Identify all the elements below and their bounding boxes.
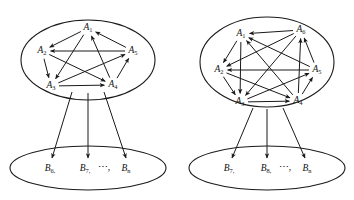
arc-A4-to-A5 xyxy=(117,58,129,78)
tournament-digraph-figure: A1A2A3A4A5B6,B7,⋯,BnA1A6A2A5A3A4B7,B8,⋯,… xyxy=(0,0,354,200)
lower-node-label-1: B6, xyxy=(45,163,56,174)
lower-node-label-2: B8, xyxy=(261,163,272,174)
node-label-A3: A3 xyxy=(234,96,244,107)
node-label-A4: A4 xyxy=(107,79,118,90)
arc-A1-to-A3 xyxy=(240,42,241,93)
node-label-A1: A1 xyxy=(235,28,245,39)
node-label-A3: A3 xyxy=(45,80,55,91)
arc-A3-to-A4 xyxy=(248,101,289,102)
arc-A5-to-A1 xyxy=(96,32,126,47)
ellipsis-label: ⋯, xyxy=(279,162,291,172)
lower-node-label-4: Bn xyxy=(121,163,131,174)
lower-node-label-2: B7, xyxy=(80,163,91,174)
left-diagram: A1A2A3A4A5B6,B7,⋯,Bn xyxy=(10,20,166,190)
node-label-A4: A4 xyxy=(292,95,303,106)
arc-A2-to-A3 xyxy=(44,59,49,78)
descending-arc-3 xyxy=(104,92,126,158)
arc-A2-to-A3 xyxy=(223,77,235,95)
node-label-A1: A1 xyxy=(82,22,92,33)
node-label-A6: A6 xyxy=(295,24,305,35)
ellipsis-label: ⋯, xyxy=(98,162,110,172)
diagram-canvas: A1A2A3A4A5B6,B7,⋯,BnA1A6A2A5A3A4B7,B8,⋯,… xyxy=(10,17,345,190)
arc-A4-to-A1 xyxy=(91,36,109,78)
node-label-A5: A5 xyxy=(127,45,137,56)
right-diagram: A1A6A2A5A3A4B7,B8,⋯,Bn xyxy=(189,17,345,190)
descending-arc-1 xyxy=(232,108,253,158)
arc-A3-to-A4 xyxy=(59,85,104,86)
arc-A4-to-A6 xyxy=(298,39,300,93)
arc-A6-to-A1 xyxy=(250,31,293,34)
lower-node-label-1: B7, xyxy=(224,163,235,174)
descending-arc-1 xyxy=(52,92,72,158)
arc-A1-to-A2 xyxy=(50,32,81,48)
arc-A1-to-A2 xyxy=(223,41,236,63)
lower-node-label-4: Bn xyxy=(302,163,312,174)
node-label-A2: A2 xyxy=(213,64,223,75)
node-label-A5: A5 xyxy=(311,64,321,75)
arc-A4-to-A5 xyxy=(302,77,312,94)
node-label-A2: A2 xyxy=(36,45,46,56)
arc-A5-to-A6 xyxy=(304,38,314,63)
descending-arc-3 xyxy=(283,108,305,158)
arc-A1-to-A3 xyxy=(56,35,84,79)
arc-A2-to-A4 xyxy=(49,54,105,81)
